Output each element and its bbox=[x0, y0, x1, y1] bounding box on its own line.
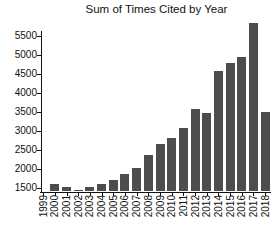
y-axis-tick-label: 2500 bbox=[7, 144, 37, 155]
x-axis-tick-label: 2008 bbox=[143, 195, 154, 219]
chart-title: Sum of Times Cited by Year bbox=[40, 3, 273, 15]
x-axis-tick-label: 2007 bbox=[131, 195, 142, 219]
bar-2010 bbox=[167, 138, 176, 192]
x-axis-tick-label: 2015 bbox=[225, 195, 236, 219]
bar-2003 bbox=[85, 187, 94, 192]
bar-2004 bbox=[97, 184, 106, 191]
bar-2012 bbox=[191, 109, 200, 191]
x-axis-tick-label: 2006 bbox=[119, 195, 130, 219]
x-axis-tick-label: 2003 bbox=[84, 195, 95, 219]
x-axis-tick-label: 2014 bbox=[213, 195, 224, 219]
bar-2001 bbox=[62, 187, 71, 191]
bar-2011 bbox=[179, 128, 188, 192]
bar-2008 bbox=[144, 155, 153, 192]
bar-2016 bbox=[237, 57, 246, 192]
y-axis-tick-label: 4000 bbox=[7, 87, 37, 98]
y-axis-tick bbox=[37, 112, 41, 113]
x-axis-tick-label: 2011 bbox=[178, 195, 189, 219]
x-axis-tick-label: 2017 bbox=[248, 195, 259, 219]
x-axis-tick-label: 2004 bbox=[96, 195, 107, 219]
y-axis-tick bbox=[37, 150, 41, 151]
bar-2002 bbox=[74, 190, 83, 192]
y-axis-tick-label: 1500 bbox=[7, 182, 37, 193]
y-axis-tick-label: 3000 bbox=[7, 125, 37, 136]
x-axis-tick-label: 2002 bbox=[73, 195, 84, 219]
bar-2018 bbox=[261, 112, 270, 192]
y-axis-tick bbox=[37, 55, 41, 56]
x-axis-tick-label: 2012 bbox=[190, 195, 201, 219]
bar-2009 bbox=[156, 144, 165, 191]
y-axis-tick-label: 5000 bbox=[7, 49, 37, 60]
x-axis-tick-label: 2009 bbox=[155, 195, 166, 219]
y-axis-line bbox=[41, 31, 42, 193]
bar-2017 bbox=[249, 23, 258, 191]
y-axis-tick bbox=[37, 169, 41, 170]
x-axis-tick-label: 2001 bbox=[61, 195, 72, 219]
y-axis-tick bbox=[37, 36, 41, 37]
x-axis-tick-label: 2010 bbox=[166, 195, 177, 219]
bar-2000 bbox=[50, 184, 59, 192]
bar-chart-figure: Sum of Times Cited by Year 1500200025003… bbox=[0, 0, 273, 225]
bar-2013 bbox=[202, 113, 211, 192]
x-axis-tick-label: 2000 bbox=[49, 195, 60, 219]
y-axis-tick bbox=[37, 131, 41, 132]
bar-2014 bbox=[214, 71, 223, 191]
y-axis-tick-label: 2000 bbox=[7, 163, 37, 174]
x-axis-tick-label: 1999 bbox=[38, 195, 49, 219]
x-axis-tick-label: 2018 bbox=[260, 195, 271, 219]
bar-2006 bbox=[120, 174, 129, 192]
x-axis-tick-label: 2005 bbox=[108, 195, 119, 219]
y-axis-tick-label: 3500 bbox=[7, 106, 37, 117]
bar-2007 bbox=[132, 168, 141, 192]
y-axis-tick bbox=[37, 188, 41, 189]
x-axis-tick-label: 2016 bbox=[236, 195, 247, 219]
x-axis-tick-label: 2013 bbox=[201, 195, 212, 219]
bar-2015 bbox=[226, 63, 235, 191]
x-axis-line bbox=[40, 192, 271, 193]
y-axis-tick bbox=[37, 74, 41, 75]
y-axis-tick bbox=[37, 93, 41, 94]
y-axis-tick-label: 4500 bbox=[7, 68, 37, 79]
y-axis-tick-label: 5500 bbox=[7, 30, 37, 41]
bar-2005 bbox=[109, 180, 118, 192]
